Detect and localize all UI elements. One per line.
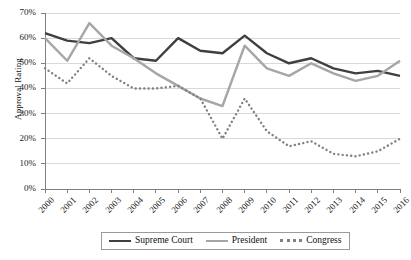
series-line-supreme-court — [45, 33, 400, 76]
y-tick-label: 20% — [8, 134, 36, 143]
y-tick-label: 70% — [8, 8, 36, 17]
y-tick-label: 40% — [8, 83, 36, 92]
approval-rating-line-chart: Approval Rating 0%10%20%30%40%50%60%70% … — [0, 0, 411, 260]
y-tick-label: 0% — [8, 184, 36, 193]
gridlines — [45, 13, 400, 189]
legend-swatch-icon — [280, 239, 302, 242]
series-line-president — [45, 23, 400, 106]
y-tick-label: 50% — [8, 58, 36, 67]
legend-swatch-icon — [109, 240, 131, 242]
chart-legend: Supreme CourtPresidentCongress — [101, 232, 350, 250]
y-tick-label: 30% — [8, 109, 36, 118]
plot-area — [0, 0, 411, 260]
legend-swatch-icon — [206, 240, 228, 242]
axis-lines — [45, 13, 400, 189]
legend-item-supreme-court[interactable]: Supreme Court — [109, 235, 193, 246]
series-lines — [45, 23, 400, 156]
legend-item-congress[interactable]: Congress — [280, 235, 341, 246]
series-line-congress — [45, 58, 400, 156]
legend-item-president[interactable]: President — [206, 235, 267, 246]
x-axis-tickmarks — [41, 13, 400, 193]
y-tick-label: 60% — [8, 33, 36, 42]
y-tick-label: 10% — [8, 159, 36, 168]
legend-label: Supreme Court — [135, 235, 193, 246]
y-axis-tick-labels: 0%10%20%30%40%50%60%70% — [6, 0, 36, 200]
legend-label: President — [232, 235, 267, 246]
legend-label: Congress — [306, 235, 341, 246]
